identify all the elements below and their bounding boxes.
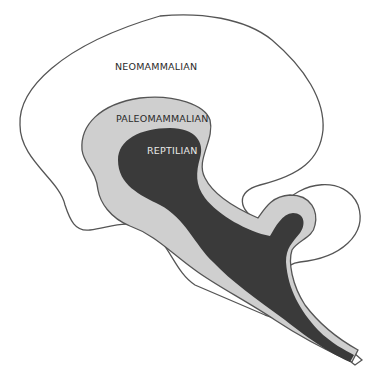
triune-brain-diagram: NEOMAMMALIAN PALEOMAMMALIAN REPTILIAN [0,0,385,375]
brain-illustration [0,0,385,375]
reptilian-label: REPTILIAN [147,145,197,156]
neomammalian-label: NEOMAMMALIAN [115,61,197,72]
paleomammalian-label: PALEOMAMMALIAN [116,113,208,124]
